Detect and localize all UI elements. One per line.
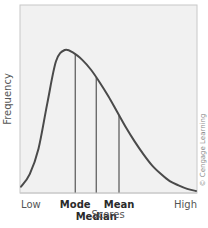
mode-label: Mode	[60, 199, 91, 210]
x-tick-high: High	[174, 199, 197, 210]
x-axis-label: Scores	[91, 209, 124, 220]
plot-area	[20, 5, 197, 193]
copyright-credit: © Cengage Learning	[199, 114, 207, 187]
skewed-distribution-chart: Low High ModeMedianMean Scores Frequency…	[0, 0, 208, 228]
x-tick-low: Low	[21, 199, 41, 210]
y-axis-label: Frequency	[2, 73, 13, 125]
